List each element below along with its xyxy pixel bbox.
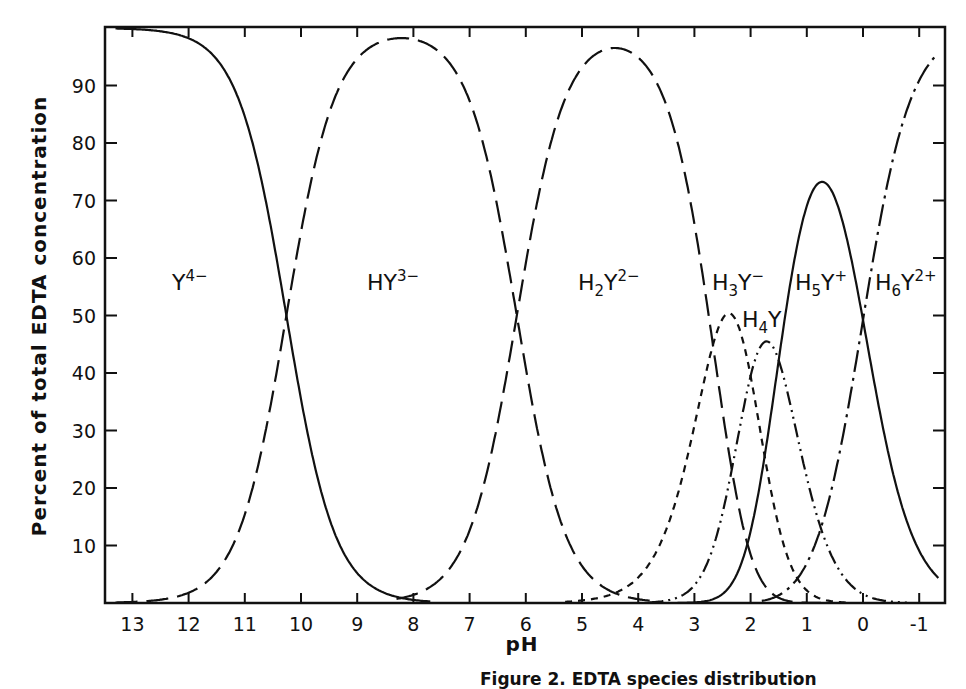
curve-hy3	[116, 38, 656, 602]
x-tick-label: 5	[576, 613, 588, 635]
curve-y4	[116, 29, 431, 602]
species-label: H3Y−	[712, 267, 764, 300]
x-axis-title: pH	[505, 632, 538, 656]
plot-frame	[105, 27, 945, 603]
y-tick-label: 20	[72, 477, 96, 499]
figure-caption: Figure 2. EDTA species distribution	[480, 669, 817, 689]
species-label: HY3−	[367, 267, 419, 295]
y-axis-title: Percent of total EDTA concentration	[27, 96, 51, 536]
species-label: H5Y+	[795, 267, 847, 300]
y-tick-label: 80	[72, 132, 96, 154]
x-tick-label: 7	[464, 613, 476, 635]
x-tick-label: 1	[801, 613, 813, 635]
x-tick-label: 11	[233, 613, 257, 635]
y-tick-label: 30	[72, 420, 96, 442]
y-tick-label: 70	[72, 190, 96, 212]
x-tick-label: 0	[857, 613, 869, 635]
curve-h6y2	[762, 53, 939, 601]
species-curves	[116, 29, 939, 604]
x-axis-ticks: 131211109876543210-1	[120, 27, 928, 635]
x-tick-label: 2	[745, 613, 757, 635]
species-label: H6Y2+	[875, 267, 937, 300]
x-tick-label: 4	[632, 613, 644, 635]
y-axis-ticks: 102030405060708090	[72, 75, 945, 557]
x-tick-label: 9	[351, 613, 363, 635]
y-tick-label: 60	[72, 247, 96, 269]
species-label: Y4−	[171, 267, 208, 295]
y-tick-label: 90	[72, 75, 96, 97]
x-tick-label: 10	[289, 613, 313, 635]
species-label: H2Y2−	[578, 267, 640, 300]
x-tick-label: 12	[177, 613, 201, 635]
curve-h4y	[649, 341, 906, 602]
x-tick-label: 13	[120, 613, 144, 635]
species-labels: Y4−HY3−H2Y2−H3Y−H4YH5Y+H6Y2+	[171, 267, 937, 337]
species-label: H4Y	[742, 307, 782, 337]
y-tick-label: 50	[72, 305, 96, 327]
plot-border	[105, 27, 945, 603]
y-tick-label: 10	[72, 535, 96, 557]
y-tick-label: 40	[72, 362, 96, 384]
x-tick-label: 3	[688, 613, 700, 635]
x-tick-label: 8	[407, 613, 419, 635]
x-tick-label: -1	[910, 613, 929, 635]
